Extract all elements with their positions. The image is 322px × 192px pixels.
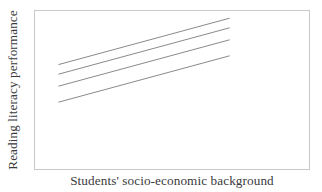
y-axis-label: Reading literacy performance — [0, 10, 26, 170]
plot-area-frame — [34, 10, 310, 170]
trend-line-1 — [58, 18, 229, 64]
chart-figure: Reading literacy performance Students' s… — [0, 0, 322, 192]
trend-lines-plot — [35, 11, 311, 171]
x-axis-label: Students' socio-economic background — [34, 172, 310, 190]
trend-line-2 — [58, 28, 229, 74]
trend-line-group — [58, 18, 229, 102]
